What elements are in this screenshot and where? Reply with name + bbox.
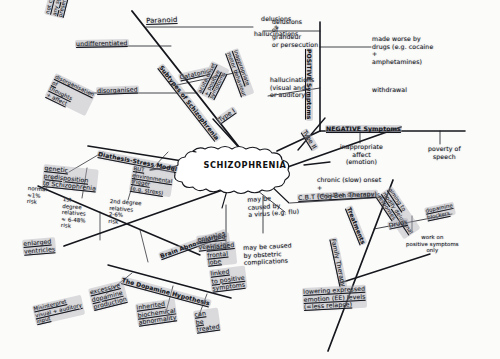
diathesis-first-degree-risk: 1st degree relatives ≈ 6-48% risk	[61, 196, 88, 231]
treatment-family-therapy-detail: lowering expressed emotion (EE) levels (…	[302, 285, 367, 311]
brain-enlarged-frontal-lobe-visible: enlarged frontal lobe	[205, 241, 237, 267]
negative-symptom-inappropriate-affect: inappropriate affect (emotion)	[340, 143, 383, 166]
brain-virus-cause: may be caused by a virus (e.g. flu)	[247, 192, 299, 218]
positive-symptom-drug-worsening: made worse by drugs (e.g. cocaine + amph…	[372, 35, 433, 65]
branch-label-negative-symptoms[interactable]: NEGATIVE Symptoms	[325, 125, 402, 133]
dopamine-can-be-treated: can be treated	[193, 307, 221, 333]
subtype-undifferentiated-label[interactable]: undifferentiated	[75, 39, 129, 47]
diathesis-second-degree-risk: 2nd degree relatives 2-6% risk	[108, 198, 142, 227]
negative-symptom-poverty-of-speech: poverty of speech	[428, 145, 461, 160]
subtype-paranoid-label[interactable]: Paranoid	[146, 16, 178, 26]
center-node-schizophrenia[interactable]: SCHIZOPHRENIA	[186, 150, 304, 180]
brain-linked-positive-symptoms: linked to positive symptoms	[209, 266, 247, 293]
diathesis-normal-risk: normal ≈1% risk	[27, 185, 48, 206]
subtype-disorganised-label[interactable]: disorganised	[96, 86, 139, 95]
mindmap-canvas: SCHIZOPHRENIA Subtypes of Schizophrenia …	[0, 0, 500, 359]
brain-enlarged-ventricles-left: enlarged ventricles	[22, 237, 56, 255]
brain-obstetric-complications: may be caused by obstetric complications	[243, 241, 293, 266]
positive-symptom-withdrawal: withdrawal	[372, 86, 407, 94]
positive-symptom-hallucinations: hallucinations (visual and / or auditory…	[270, 76, 314, 99]
center-node-label: SCHIZOPHRENIA	[186, 150, 304, 180]
positive-symptom-delusions: delusions of grandeur or persecution	[272, 18, 318, 48]
treatment-drugs-detail-2: work on positive symptoms only	[406, 234, 459, 254]
